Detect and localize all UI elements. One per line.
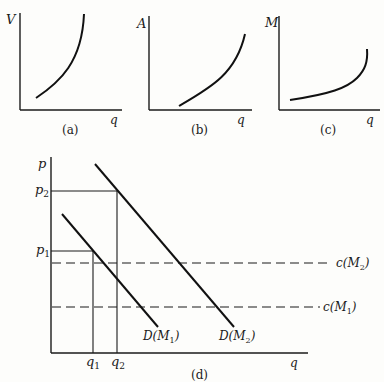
q2-label: q2	[111, 354, 125, 371]
d-ylabel: p	[38, 156, 47, 171]
d-m1-line	[62, 214, 158, 327]
q1-label: q1	[86, 354, 100, 371]
panel-d: p p2 p1 q1 q2 D(M1) D(M2) c(M2) c(M1) q …	[35, 156, 370, 382]
d-m1-label: D(M1)	[142, 329, 180, 345]
a-curve	[36, 14, 84, 98]
c-xlabel: q	[366, 113, 374, 127]
p2-label: p2	[35, 182, 49, 199]
panel-a: V q (a)	[6, 12, 122, 137]
p1-label: p1	[36, 242, 50, 259]
panel-c: M q (c)	[264, 15, 380, 137]
b-ylabel: A	[136, 16, 146, 31]
d-xlabel: q	[290, 356, 298, 370]
a-caption: (a)	[62, 123, 79, 137]
d-m2-line	[95, 164, 234, 327]
panel-b: A q (b)	[136, 16, 252, 137]
c-ylabel: M	[264, 15, 279, 30]
a-ylabel: V	[6, 12, 17, 27]
d-m2-label: D(M2)	[218, 329, 256, 345]
b-caption: (b)	[191, 123, 208, 137]
b-xlabel: q	[237, 113, 245, 127]
c-m2-label: c(M2)	[336, 256, 370, 272]
c-m1-label: c(M1)	[323, 300, 357, 316]
b-curve	[179, 34, 245, 106]
c-curve	[290, 49, 367, 100]
a-xlabel: q	[110, 113, 118, 127]
c-caption: (c)	[320, 123, 336, 137]
figure: V q (a) A q (b) M q (c) p	[0, 0, 384, 382]
d-caption: (d)	[191, 368, 208, 382]
